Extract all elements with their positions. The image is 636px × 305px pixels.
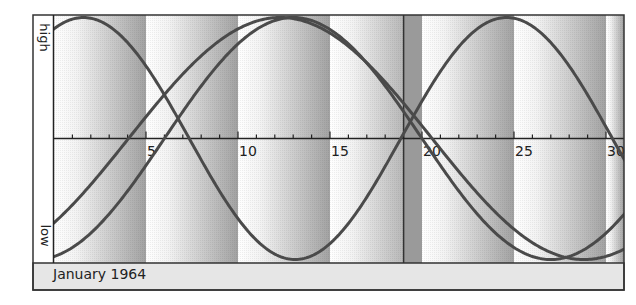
- x-tick-label: 25: [515, 143, 533, 159]
- x-tick-label: 15: [331, 143, 349, 159]
- biorhythm-chart: 51015202530: [0, 0, 636, 305]
- y-label-high: high: [37, 23, 52, 51]
- month-label: January 1964: [53, 266, 146, 282]
- y-label-low: low: [38, 224, 53, 246]
- x-tick-label: 10: [239, 143, 257, 159]
